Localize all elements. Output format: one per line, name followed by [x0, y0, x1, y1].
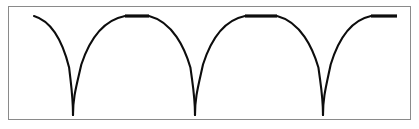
curve-notch-1-right-arm	[73, 16, 125, 115]
screenshot-root: Three deep V-shaped notches separated by…	[0, 0, 419, 129]
chart-title	[0, 0, 1, 1]
curve-notch-3-right-arm	[323, 16, 371, 115]
notch-response-chart	[9, 7, 412, 121]
curve-notch-1-left-arm	[34, 16, 73, 115]
curve-notch-2-right-arm	[195, 16, 245, 115]
curve-notch-2-left-arm	[149, 16, 195, 115]
curve-notch-3-left-arm	[277, 16, 323, 115]
chart-description: Three deep V-shaped notches separated by…	[0, 0, 1, 1]
plot-frame	[8, 6, 411, 120]
